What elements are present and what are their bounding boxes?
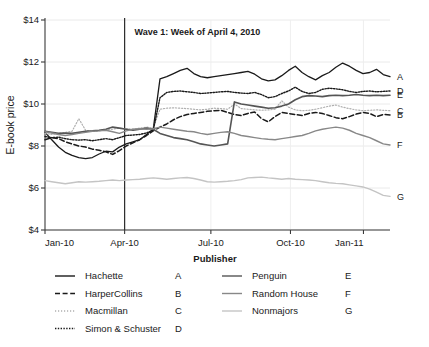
legend-label-C: Macmillan — [85, 305, 128, 316]
legend-key-D: D — [175, 323, 182, 334]
legend-key-A: A — [175, 270, 182, 281]
legend-label-D: Simon & Schuster — [85, 323, 161, 334]
y-tick-label-0: $4 — [28, 224, 39, 235]
chart-figure: $4$6$8$10$12$14Jan-10Apr-10Jul-10Oct-10J… — [0, 0, 429, 347]
legend-key-E: E — [345, 270, 351, 281]
y-tick-label-4: $12 — [23, 56, 39, 67]
legend-label-A: Hachette — [85, 270, 123, 281]
y-tick-label-1: $6 — [28, 182, 39, 193]
series-end-label-C: C — [397, 106, 404, 116]
x-tick-label-4: Jan-11 — [335, 237, 363, 248]
legend-label-E: Penguin — [252, 270, 287, 281]
y-tick-label-2: $8 — [28, 140, 39, 151]
y-tick-label-5: $14 — [23, 14, 39, 25]
series-end-label-A: A — [397, 72, 403, 82]
legend-label-B: HarperCollins — [85, 288, 143, 299]
series-end-label-F: F — [397, 140, 403, 150]
legend-label-G: Nonmajors — [252, 305, 298, 316]
wave1-annotation-label: Wave 1: Week of April 4, 2010 — [135, 27, 261, 37]
x-tick-label-3: Oct-10 — [276, 237, 305, 248]
series-line-nonmajors — [45, 177, 390, 196]
y-axis-title: E-book price — [4, 95, 16, 154]
y-tick-label-3: $10 — [23, 98, 39, 109]
x-tick-label-1: Apr-10 — [110, 237, 139, 248]
legend-title: Publisher — [193, 253, 237, 264]
series-line-penguin — [45, 95, 390, 146]
ebook-price-line-chart: $4$6$8$10$12$14Jan-10Apr-10Jul-10Oct-10J… — [0, 0, 429, 347]
legend-key-G: G — [345, 305, 352, 316]
series-end-label-G: G — [397, 192, 404, 202]
x-tick-label-2: Jul-10 — [198, 237, 224, 248]
legend-label-F: Random House — [252, 288, 318, 299]
legend-key-F: F — [345, 288, 351, 299]
legend-key-B: B — [175, 288, 181, 299]
legend-key-C: C — [175, 305, 182, 316]
series-end-label-E: E — [397, 90, 403, 100]
x-tick-label-0: Jan-10 — [45, 237, 74, 248]
